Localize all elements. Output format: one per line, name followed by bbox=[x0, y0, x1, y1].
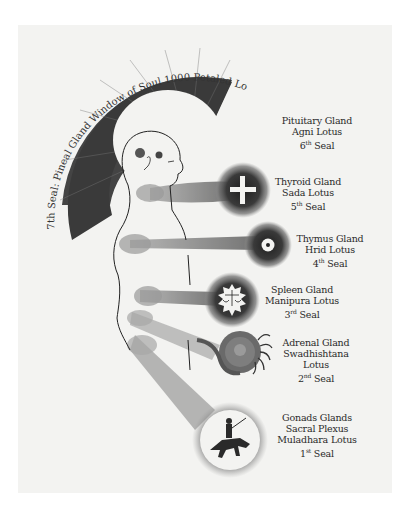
gland-name: Thyroid Gland bbox=[268, 176, 348, 187]
plexus-name: Sacral Plexus bbox=[276, 423, 358, 434]
seal-6-label: Pituitary Gland Agni Lotus 6th Seal bbox=[262, 115, 372, 151]
lotus-name: Hrid Lotus bbox=[290, 244, 370, 255]
seal-number: 6th Seal bbox=[262, 137, 372, 151]
seal-number: 1st Seal bbox=[276, 445, 358, 459]
seal-2-label: Adrenal Gland Swadhishtana Lotus 2nd Sea… bbox=[278, 337, 354, 384]
seal-1-label: Gonads Glands Sacral Plexus Muladhara Lo… bbox=[276, 412, 358, 459]
gland-name: Spleen Gland bbox=[261, 284, 343, 295]
spleen-seal bbox=[204, 272, 260, 328]
lotus-name: Agni Lotus bbox=[262, 126, 372, 137]
seal-5-label: Thyroid Gland Sada Lotus 5th Seal bbox=[268, 176, 348, 212]
lotus-name: Sada Lotus bbox=[268, 187, 348, 198]
dot-circle-icon bbox=[262, 239, 275, 252]
lotus-name: Manipura Lotus bbox=[261, 295, 343, 306]
lotus-name: Swadhishtana bbox=[278, 348, 354, 359]
seal-3-label: Spleen Gland Manipura Lotus 3rd Seal bbox=[261, 284, 343, 320]
gonads-seal bbox=[192, 402, 268, 478]
seal-number: 2nd Seal bbox=[278, 370, 354, 384]
gland-name: Gonads Glands bbox=[276, 412, 358, 423]
gland-name: Pituitary Gland bbox=[262, 115, 372, 126]
seal-4-label: Thymus Gland Hrid Lotus 4th Seal bbox=[290, 233, 370, 269]
lotus-name-cont: Lotus bbox=[278, 359, 354, 370]
lotus-name: Muladhara Lotus bbox=[276, 434, 358, 445]
seal-number: 3rd Seal bbox=[261, 306, 343, 320]
seal-number: 5th Seal bbox=[268, 198, 348, 212]
gland-name: Thymus Gland bbox=[290, 233, 370, 244]
seal-number: 4th Seal bbox=[290, 255, 370, 269]
thyroid-seal bbox=[215, 162, 271, 218]
gland-name: Adrenal Gland bbox=[278, 337, 354, 348]
thymus-seal bbox=[244, 221, 292, 269]
